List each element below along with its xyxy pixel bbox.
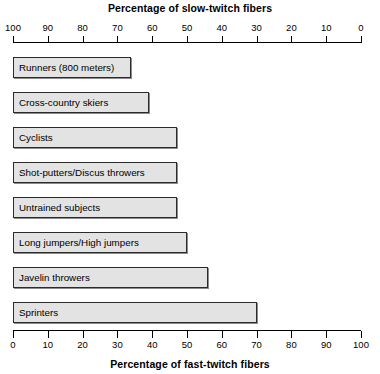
bar: Untrained subjects <box>13 197 177 218</box>
bar: Long jumpers/High jumpers <box>13 232 187 253</box>
slow-fast-twitch-fiber-chart: Percentage of slow-twitch fibers 1009080… <box>0 0 380 374</box>
axis-tick-label: 70 <box>244 339 270 350</box>
axis-tick-label: 0 <box>0 339 26 350</box>
axis-tick-label: 30 <box>104 339 130 350</box>
axis-tick-label: 80 <box>278 339 304 350</box>
axis-tick <box>152 331 153 338</box>
bars-layer: Runners (800 meters)Cross-country skiers… <box>0 0 380 374</box>
bar-label: Untrained subjects <box>19 203 100 213</box>
bar: Shot-putters/Discus throwers <box>13 162 177 183</box>
bar-label: Sprinters <box>19 308 58 318</box>
axis-tick <box>222 331 223 338</box>
bar-label: Cyclists <box>19 133 53 143</box>
axis-tick <box>361 331 362 338</box>
axis-tick <box>117 331 118 338</box>
bar-label: Javelin throwers <box>19 273 90 283</box>
bar: Cross-country skiers <box>13 92 149 113</box>
axis-tick-label: 90 <box>313 339 339 350</box>
axis-tick <box>13 331 14 338</box>
axis-tick-label: 60 <box>209 339 235 350</box>
bar-label: Long jumpers/High jumpers <box>19 238 139 248</box>
bar: Cyclists <box>13 127 177 148</box>
axis-tick-label: 20 <box>70 339 96 350</box>
axis-tick-label: 100 <box>348 339 374 350</box>
bar-label: Runners (800 meters) <box>19 63 114 73</box>
axis-tick <box>83 331 84 338</box>
bar-label: Shot-putters/Discus throwers <box>19 168 145 178</box>
bar: Sprinters <box>13 302 257 323</box>
bar-label: Cross-country skiers <box>19 98 108 108</box>
axis-tick <box>187 331 188 338</box>
bottom-axis-title: Percentage of fast-twitch fibers <box>0 358 380 370</box>
axis-tick <box>326 331 327 338</box>
axis-tick-label: 50 <box>174 339 200 350</box>
axis-tick-label: 40 <box>139 339 165 350</box>
axis-tick-label: 10 <box>35 339 61 350</box>
axis-tick <box>257 331 258 338</box>
bar: Runners (800 meters) <box>13 57 131 78</box>
axis-tick <box>48 331 49 338</box>
axis-tick <box>291 331 292 338</box>
bar: Javelin throwers <box>13 267 208 288</box>
